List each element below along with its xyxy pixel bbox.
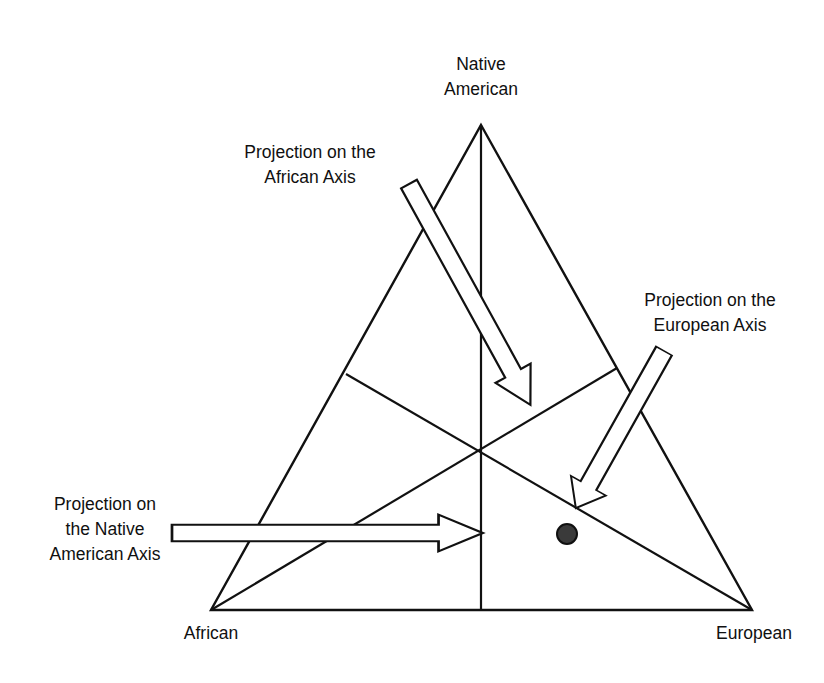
annotation-label-european-axis: Projection on the European Axis bbox=[612, 288, 808, 338]
ternary-plot-canvas bbox=[0, 0, 824, 683]
vertex-label-european: European bbox=[690, 621, 818, 646]
vertex-label-native-american: Native American bbox=[391, 52, 571, 102]
annotation-label-native-american-axis: Projection on the Native American Axis bbox=[22, 492, 188, 567]
individual-admixture-point bbox=[557, 524, 577, 544]
native-american-axis-arrow bbox=[172, 515, 483, 552]
vertex-label-african: African bbox=[138, 621, 284, 646]
annotation-label-african-axis: Projection on the African Axis bbox=[213, 140, 407, 190]
european-axis-arrow bbox=[558, 341, 681, 518]
african-axis-arrow bbox=[391, 174, 547, 414]
median-african-axis bbox=[211, 368, 617, 610]
ternary-diagram-figure: Native American African European Project… bbox=[0, 0, 824, 683]
